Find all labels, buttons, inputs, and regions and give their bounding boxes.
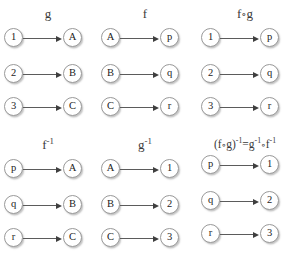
panel-f-compose-g-rows: 1 p 2 q 3 r — [197, 28, 293, 126]
mapping-arrow-icon — [220, 164, 260, 168]
panel-f-rows: A p B q C r — [97, 28, 193, 126]
panel-label-f-compose-g-inverse: (f∘g)-1=g-1∘f-1 — [185, 137, 296, 153]
mapping-row: B 2 — [97, 195, 193, 217]
mapping-row: 3 C — [0, 97, 96, 119]
mapping-row: 2 q — [197, 64, 293, 86]
node-target: A — [63, 28, 82, 47]
node-target: C — [63, 97, 82, 116]
mapping-arrow-icon — [23, 168, 63, 172]
mapping-row: r 3 — [197, 224, 293, 246]
mapping-arrow-icon — [120, 106, 160, 110]
panel-label-f-inverse: f-1 — [0, 137, 96, 152]
mapping-arrow-icon — [23, 73, 63, 77]
panel-f-compose-g-inverse: (f∘g)-1=g-1∘f-1 p 1 q 2 r 3 — [197, 137, 293, 257]
node-source: p — [201, 155, 220, 174]
node-source: q — [201, 191, 220, 210]
mapping-row: q B — [0, 195, 96, 217]
mapping-arrow-icon — [23, 37, 63, 41]
mapping-arrow-icon — [220, 37, 260, 41]
node-source: C — [101, 228, 120, 247]
node-target: 2 — [160, 195, 179, 214]
node-target: 2 — [260, 191, 279, 210]
node-source: B — [101, 64, 120, 83]
node-source: q — [4, 195, 23, 214]
mapping-row: A p — [97, 28, 193, 50]
mapping-arrow-icon — [120, 237, 160, 241]
panel-label-f: f — [97, 6, 193, 21]
node-source: p — [4, 159, 23, 178]
panel-f: f A p B q C r — [97, 6, 193, 126]
mapping-row: B q — [97, 64, 193, 86]
mapping-row: p 1 — [197, 155, 293, 177]
mapping-row: r C — [0, 228, 96, 250]
mapping-row: C r — [97, 97, 193, 119]
panel-g-inverse: g-1 A 1 B 2 C 3 — [97, 137, 193, 257]
mapping-arrow-icon — [220, 233, 260, 237]
node-target: p — [260, 28, 279, 47]
node-target: 1 — [160, 159, 179, 178]
mapping-arrow-icon — [23, 204, 63, 208]
mapping-arrow-icon — [23, 237, 63, 241]
node-source: C — [101, 97, 120, 116]
node-target: p — [160, 28, 179, 47]
mapping-row: 2 B — [0, 64, 96, 86]
panel-label-g-inverse: g-1 — [97, 137, 193, 152]
node-source: 1 — [201, 28, 220, 47]
panel-g: g 1 A 2 B 3 C — [0, 6, 96, 126]
panel-f-inverse: f-1 p A q B r C — [0, 137, 96, 257]
mapping-arrow-icon — [220, 106, 260, 110]
panel-f-inverse-rows: p A q B r C — [0, 159, 96, 257]
node-target: 3 — [260, 224, 279, 243]
mapping-arrow-icon — [220, 73, 260, 77]
panel-label-g: g — [0, 6, 96, 21]
mapping-arrow-icon — [120, 73, 160, 77]
node-target: B — [63, 195, 82, 214]
node-source: 3 — [201, 97, 220, 116]
panel-f-compose-g-inverse-rows: p 1 q 2 r 3 — [197, 155, 293, 253]
node-source: 2 — [201, 64, 220, 83]
node-source: B — [101, 195, 120, 214]
node-source: r — [201, 224, 220, 243]
node-source: r — [4, 228, 23, 247]
panel-g-inverse-rows: A 1 B 2 C 3 — [97, 159, 193, 257]
node-target: q — [160, 64, 179, 83]
node-target: C — [63, 228, 82, 247]
panel-g-rows: 1 A 2 B 3 C — [0, 28, 96, 126]
mapping-row: C 3 — [97, 228, 193, 250]
node-source: A — [101, 28, 120, 47]
mapping-row: 1 p — [197, 28, 293, 50]
mapping-row: 1 A — [0, 28, 96, 50]
node-target: r — [160, 97, 179, 116]
node-target: r — [260, 97, 279, 116]
mapping-arrow-icon — [220, 200, 260, 204]
node-target: B — [63, 64, 82, 83]
mapping-row: 3 r — [197, 97, 293, 119]
function-diagram-figure: g 1 A 2 B 3 C f A p — [0, 0, 296, 258]
node-target: A — [63, 159, 82, 178]
panel-label-f-compose-g: f∘g — [197, 6, 293, 22]
node-target: q — [260, 64, 279, 83]
mapping-arrow-icon — [120, 204, 160, 208]
mapping-row: A 1 — [97, 159, 193, 181]
node-source: 3 — [4, 97, 23, 116]
mapping-row: p A — [0, 159, 96, 181]
panel-f-compose-g: f∘g 1 p 2 q 3 r — [197, 6, 293, 126]
node-source: 1 — [4, 28, 23, 47]
node-target: 1 — [260, 155, 279, 174]
mapping-arrow-icon — [23, 106, 63, 110]
mapping-arrow-icon — [120, 37, 160, 41]
mapping-row: q 2 — [197, 191, 293, 213]
node-source: 2 — [4, 64, 23, 83]
node-source: A — [101, 159, 120, 178]
node-target: 3 — [160, 228, 179, 247]
mapping-arrow-icon — [120, 168, 160, 172]
